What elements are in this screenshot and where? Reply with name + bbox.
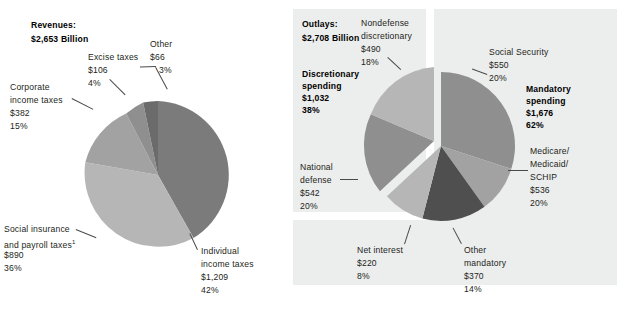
footnote-marker: 1: [72, 239, 76, 245]
leader-medicare-medicaid-schip: [508, 170, 528, 171]
figure-canvas: Revenues: $2,653 Billion Other $66 3% Ex…: [0, 0, 617, 310]
leader-other-revenue: [140, 66, 156, 67]
label-social-security-percent: 20%: [489, 73, 507, 84]
label-other-mandatory-2: mandatory: [464, 258, 506, 269]
label-social-insurance-percent: 36%: [4, 263, 22, 274]
group-label-mandatory-percent: 62%: [526, 120, 544, 131]
label-medicare-medicaid-schip-percent: 20%: [530, 198, 548, 209]
revenues-title: Revenues:: [31, 20, 76, 31]
label-nondefense-discretionary-2: discretionary: [361, 31, 412, 42]
label-medicare-medicaid-schip-amount: $536: [530, 185, 550, 196]
label-other-revenue: Other: [150, 39, 172, 50]
group-label-discretionary-percent: 38%: [302, 105, 320, 116]
label-national-defense-amount: $542: [300, 188, 320, 199]
label-corporate-income-taxes-2: income taxes: [10, 95, 63, 106]
label-social-insurance-amount: $890: [4, 250, 24, 261]
label-individual-income-taxes: Individual: [201, 246, 239, 257]
label-other-mandatory-amount: $370: [464, 271, 484, 282]
label-net-interest-amount: $220: [357, 258, 377, 269]
label-other-revenue-amount: $66: [150, 52, 165, 63]
label-national-defense: National: [300, 162, 333, 173]
revenues-subtitle: $2,653 Billion: [31, 34, 88, 45]
group-label-discretionary-2: spending: [302, 81, 342, 92]
label-medicare-medicaid-schip: Medicare/: [530, 146, 569, 157]
label-other-mandatory: Other: [464, 245, 486, 256]
label-national-defense-2: defense: [300, 175, 332, 186]
leader-excise-taxes: [109, 79, 125, 95]
group-label-mandatory-2: spending: [526, 96, 566, 107]
label-medicare-medicaid-schip-2: Medicaid/: [530, 159, 568, 170]
label-excise-taxes: Excise taxes: [88, 52, 138, 63]
group-label-discretionary: Discretionary: [302, 69, 359, 80]
label-individual-income-taxes-2: income taxes: [201, 259, 254, 270]
outlays-pie-discretionary: [357, 64, 511, 218]
group-label-mandatory: Mandatory: [526, 84, 571, 95]
label-corporate-income-taxes: Corporate: [10, 82, 50, 93]
label-excise-taxes-percent: 4%: [88, 78, 101, 89]
label-national-defense-percent: 20%: [300, 201, 318, 212]
label-nondefense-discretionary: Nondefense: [361, 18, 409, 29]
group-label-discretionary-amount: $1,032: [302, 93, 329, 104]
leader-national-defense: [340, 179, 358, 180]
label-medicare-medicaid-schip-3: SCHIP: [530, 172, 557, 183]
label-corporate-income-taxes-amount: $382: [10, 108, 30, 119]
label-nondefense-discretionary-amount: $490: [361, 44, 381, 55]
revenues-pie: [83, 100, 233, 250]
outlays-title: Outlays:: [302, 19, 338, 30]
label-social-insurance-2: and payroll taxes1: [4, 237, 75, 251]
label-other-revenue-percent: 3%: [159, 65, 172, 76]
label-other-mandatory-percent: 14%: [464, 284, 482, 295]
label-social-security: Social Security: [489, 47, 548, 58]
label-net-interest-percent: 8%: [357, 271, 370, 282]
label-individual-income-taxes-amount: $1,209: [201, 272, 228, 283]
label-net-interest: Net interest: [357, 245, 403, 256]
label-excise-taxes-amount: $106: [88, 65, 108, 76]
label-social-insurance: Social insurance: [4, 224, 70, 235]
label-individual-income-taxes-percent: 42%: [201, 285, 219, 296]
label-social-security-amount: $550: [489, 60, 509, 71]
label-corporate-income-taxes-percent: 15%: [10, 121, 28, 132]
label-nondefense-discretionary-percent: 18%: [361, 57, 379, 68]
panel-bottom-bg: [293, 220, 617, 285]
outlays-subtitle: $2,708 Billion: [302, 33, 359, 44]
group-label-mandatory-amount: $1,676: [526, 108, 553, 119]
